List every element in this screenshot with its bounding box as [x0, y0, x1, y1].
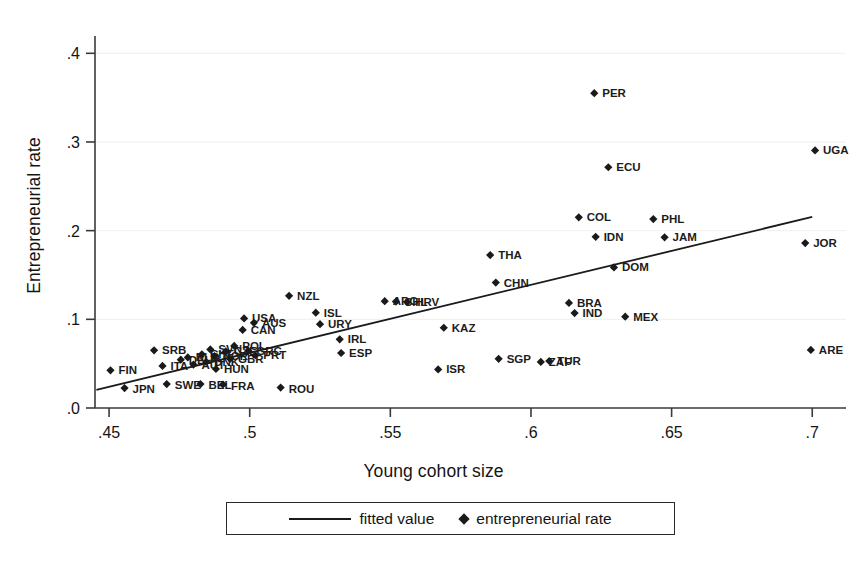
diamond-marker-icon — [590, 89, 598, 97]
data-point-label: JPN — [133, 383, 155, 395]
data-point: SGP — [495, 353, 532, 365]
data-point-label: CHN — [504, 277, 529, 289]
data-point-label: PHL — [661, 213, 684, 225]
x-axis-tick-label: .7 — [806, 424, 819, 441]
data-point-label: UGA — [823, 144, 849, 156]
chart-legend: fitted value entrepreneurial rate — [226, 502, 675, 535]
data-point: ARE — [807, 344, 844, 356]
x-axis-tick-label: .6 — [524, 424, 537, 441]
data-point-label: ISR — [446, 363, 466, 375]
data-point: JOR — [801, 237, 837, 249]
data-point: ESP — [337, 347, 372, 359]
data-point: COL — [575, 211, 611, 223]
diamond-marker-icon — [604, 163, 612, 171]
diamond-marker-icon — [120, 384, 128, 392]
data-point: UGA — [811, 144, 849, 156]
line-marker-icon — [289, 518, 351, 520]
data-point: IND — [570, 307, 602, 319]
diamond-marker-icon — [565, 299, 573, 307]
data-point-label: ECU — [616, 161, 640, 173]
legend-label-fitted-value: fitted value — [359, 510, 434, 528]
diamond-marker-icon — [486, 251, 494, 259]
x-axis-title: Young cohort size — [0, 461, 867, 482]
diamond-marker-icon — [106, 366, 114, 374]
x-axis-tick-label: .55 — [379, 424, 401, 441]
diamond-marker-icon — [240, 314, 248, 322]
diamond-marker-icon — [239, 326, 247, 334]
data-point-label: PER — [602, 87, 626, 99]
diamond-marker-icon — [158, 362, 166, 370]
data-point-label: FRA — [231, 380, 255, 392]
diamond-marker-icon — [285, 292, 293, 300]
y-axis-tick-label: .1 — [67, 311, 80, 328]
diamond-marker-icon — [277, 384, 285, 392]
diamond-marker-icon — [592, 233, 600, 241]
data-point-label: JOR — [813, 237, 837, 249]
data-point: NZL — [285, 290, 319, 302]
x-axis-tick-label: .45 — [98, 424, 120, 441]
plot-area: .0.1.2.3.4.45.5.55.6.65.7FINJPNSRBITASWE… — [0, 0, 867, 570]
data-point: SWE — [163, 379, 202, 391]
data-point: MEX — [621, 311, 658, 323]
data-point: ISL — [312, 307, 342, 319]
data-point-label: FIN — [118, 364, 137, 376]
data-point-label: THA — [498, 249, 522, 261]
data-point-label: MEX — [633, 311, 658, 323]
data-point-label: ARE — [819, 344, 844, 356]
data-point: THA — [486, 249, 522, 261]
data-point: PER — [590, 87, 626, 99]
data-point-label: COL — [587, 211, 611, 223]
data-point-label: ROU — [289, 383, 315, 395]
diamond-marker-icon — [649, 215, 657, 223]
diamond-marker-icon — [660, 233, 668, 241]
data-point: IRL — [336, 333, 367, 345]
diamond-marker-icon — [316, 320, 324, 328]
data-point: SRB — [150, 344, 186, 356]
data-point-label: IDN — [604, 231, 624, 243]
data-point-label: PRT — [263, 349, 286, 361]
data-point: FIN — [106, 364, 137, 376]
data-point-label: ESP — [349, 347, 372, 359]
y-axis-tick-label: .2 — [67, 223, 80, 240]
data-point: CHN — [492, 277, 529, 289]
diamond-marker-icon — [163, 380, 171, 388]
data-point-label: SWE — [175, 379, 202, 391]
y-axis-tick-label: .4 — [67, 45, 80, 62]
data-point: ECU — [604, 161, 640, 173]
data-point-label: SRB — [162, 344, 186, 356]
diamond-marker-icon — [801, 239, 809, 247]
data-point: URY — [316, 318, 352, 330]
data-point-label: KAZ — [452, 322, 476, 334]
diamond-marker-icon — [495, 355, 503, 363]
data-point: IDN — [592, 231, 624, 243]
y-axis-tick-label: .0 — [67, 400, 80, 417]
scatter-chart: .0.1.2.3.4.45.5.55.6.65.7FINJPNSRBITASWE… — [0, 0, 867, 570]
data-point-label: DOM — [622, 261, 649, 273]
diamond-marker-icon — [575, 213, 583, 221]
x-axis-tick-label: .5 — [243, 424, 256, 441]
data-point-label: TUR — [557, 355, 581, 367]
diamond-marker-icon — [336, 335, 344, 343]
data-point-label: URY — [328, 318, 352, 330]
data-point-label: IND — [583, 307, 603, 319]
data-point: JAM — [660, 231, 696, 243]
diamond-marker-icon — [434, 365, 442, 373]
data-point: ROU — [277, 383, 315, 395]
diamond-marker-icon — [570, 309, 578, 317]
data-point-label: NZL — [297, 290, 319, 302]
legend-item-entrepreneurial-rate: entrepreneurial rate — [460, 510, 611, 528]
data-point: ISR — [434, 363, 466, 375]
legend-item-fitted-value: fitted value — [289, 510, 434, 528]
diamond-marker-icon — [492, 278, 500, 286]
diamond-marker-icon — [537, 358, 545, 366]
data-point-label: SGP — [507, 353, 532, 365]
legend-label-entrepreneurial-rate: entrepreneurial rate — [476, 510, 611, 528]
diamond-marker-icon — [337, 349, 345, 357]
data-point-label: HRV — [415, 296, 439, 308]
data-point-label: AUS — [262, 317, 287, 329]
data-point: DOM — [610, 261, 649, 273]
diamond-marker-icon — [150, 346, 158, 354]
data-point: KAZ — [440, 322, 476, 334]
y-axis-title: Entrepreneurial rate — [24, 86, 45, 346]
diamond-marker-icon — [440, 324, 448, 332]
